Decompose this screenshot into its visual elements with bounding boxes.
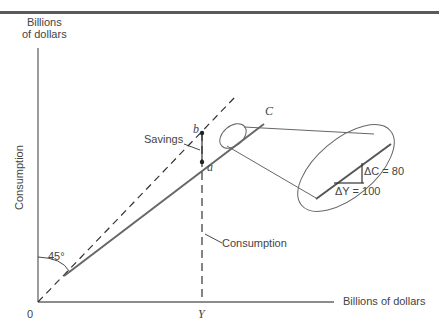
- consumption-function-label: C: [265, 104, 273, 119]
- consumption-pointer: [205, 234, 222, 243]
- savings-label: Savings: [144, 133, 183, 145]
- 45-degree-line: [38, 96, 236, 302]
- cone-line-bottom: [227, 146, 316, 198]
- y-unit-line-2: of dollars: [22, 28, 67, 40]
- y-axis-label: Consumption: [13, 145, 25, 210]
- origin-label: 0: [27, 308, 33, 320]
- cone-line-top: [244, 127, 374, 134]
- savings-pointer: [184, 144, 200, 150]
- consumption-label: Consumption: [222, 237, 287, 249]
- point-a: [200, 160, 204, 164]
- angle-label: 45°: [48, 250, 65, 262]
- y-axis-unit-label: Billions of dollars: [22, 16, 67, 40]
- delta-c-label: ΔC = 80: [364, 165, 404, 177]
- point-a-label: a: [207, 160, 213, 175]
- consumption-function-diagram: [0, 0, 439, 324]
- income-label: Y: [198, 307, 205, 322]
- y-unit-line-1: Billions: [22, 16, 67, 28]
- point-b: [200, 131, 204, 135]
- x-axis-label: Billions of dollars: [343, 295, 426, 307]
- point-b-label: b: [193, 122, 199, 137]
- delta-y-label: ΔY = 100: [335, 185, 380, 197]
